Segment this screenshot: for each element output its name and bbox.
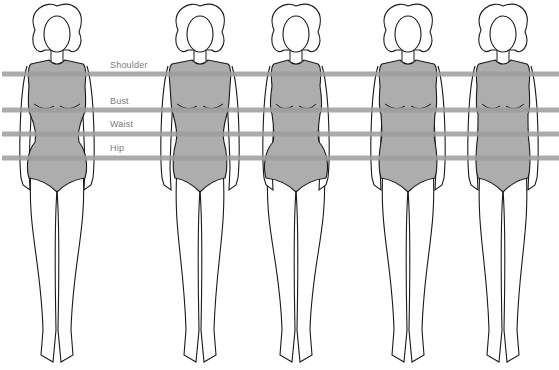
leotard xyxy=(169,60,230,192)
face xyxy=(490,16,516,52)
left-leg xyxy=(479,168,503,362)
leotard xyxy=(476,60,530,192)
left-leg xyxy=(267,168,296,362)
right-leg xyxy=(57,168,84,362)
right-leg xyxy=(200,168,224,362)
label-shoulder: Shoulder xyxy=(110,60,148,70)
body-shape-diagram: Shoulder Bust Waist Hip xyxy=(0,0,559,370)
face xyxy=(44,16,70,52)
right-leg xyxy=(296,168,325,362)
label-waist: Waist xyxy=(110,119,133,129)
measure-line-shoulder xyxy=(2,72,559,77)
face xyxy=(187,16,213,52)
face xyxy=(395,16,421,52)
measure-line-bust xyxy=(2,108,559,113)
label-bust: Bust xyxy=(110,96,129,106)
measure-line-hip xyxy=(2,156,559,161)
leotard xyxy=(379,60,437,192)
left-leg xyxy=(176,168,200,362)
label-hip: Hip xyxy=(110,143,124,153)
right-leg xyxy=(408,168,434,362)
face xyxy=(283,16,309,52)
leotard xyxy=(264,60,327,192)
leotard xyxy=(27,60,86,192)
figures-canvas xyxy=(0,0,559,370)
measure-line-waist xyxy=(2,132,559,137)
left-leg xyxy=(30,168,57,362)
right-leg xyxy=(503,168,527,362)
left-leg xyxy=(382,168,408,362)
